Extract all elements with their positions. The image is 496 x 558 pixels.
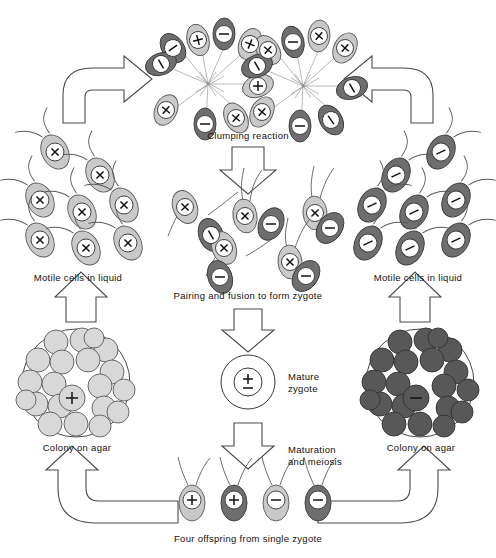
sign-badge	[263, 216, 280, 233]
sign-badge	[224, 106, 248, 130]
sign-badge	[398, 236, 422, 260]
label-four-offspring: Four offspring from single zygote	[158, 533, 338, 544]
sign-badge	[111, 192, 136, 217]
sign-badge	[73, 235, 98, 260]
sign-badge	[356, 231, 380, 255]
label-maturation-line2: and meiosis	[288, 456, 368, 467]
sign-badge	[360, 193, 384, 217]
sign-badge	[444, 188, 468, 212]
sign-badge	[333, 36, 357, 60]
sign-badge	[69, 199, 94, 224]
sign-badge	[322, 220, 339, 237]
sign-badge	[309, 491, 327, 509]
sign-badge	[216, 26, 233, 43]
sign-badge	[250, 100, 274, 124]
sign-badge	[115, 230, 140, 255]
sign-badge	[225, 491, 243, 509]
sign-badge	[173, 195, 197, 219]
figure-canvas: Clumping reaction Pairing and fusion to …	[0, 0, 496, 558]
sign-badge	[444, 228, 468, 252]
sign-badge	[319, 108, 343, 132]
label-pairing-fusion: Pairing and fusion to form zygote	[163, 290, 333, 301]
sign-badge	[429, 140, 453, 164]
sign-badge	[298, 268, 315, 285]
sign-badge	[278, 250, 302, 274]
sign-badge	[183, 491, 201, 509]
sign-badge	[154, 98, 178, 122]
sign-badge	[87, 162, 112, 187]
label-mature-zygote-line2: zygote	[288, 383, 348, 394]
sign-badge	[27, 227, 52, 252]
sign-badge	[188, 30, 209, 51]
sign-badge	[239, 33, 261, 55]
label-colony-left: Colony on agar	[18, 442, 136, 453]
sign-badge-colony-left	[66, 392, 78, 404]
label-clumping-reaction: Clumping reaction	[188, 130, 308, 141]
sign-badge	[285, 34, 302, 51]
label-colony-right: Colony on agar	[362, 442, 480, 453]
sign-badge	[250, 78, 267, 95]
sign-badge	[307, 24, 331, 48]
sign-badge	[212, 269, 229, 286]
sign-badge	[340, 76, 363, 99]
sign-badge	[384, 163, 408, 187]
label-motile-cells-left: Motile cells in liquid	[13, 272, 143, 283]
sign-badge-zygote	[243, 374, 253, 388]
sign-badge	[42, 139, 67, 164]
sign-badge	[267, 491, 285, 509]
label-maturation-line1: Maturation	[288, 444, 368, 455]
sign-badge	[27, 187, 52, 212]
sign-badge	[402, 200, 426, 224]
label-mature-zygote-line1: Mature	[288, 371, 348, 382]
label-motile-cells-right: Motile cells in liquid	[353, 272, 483, 283]
sign-badge	[233, 204, 257, 228]
sign-badge	[303, 201, 327, 225]
